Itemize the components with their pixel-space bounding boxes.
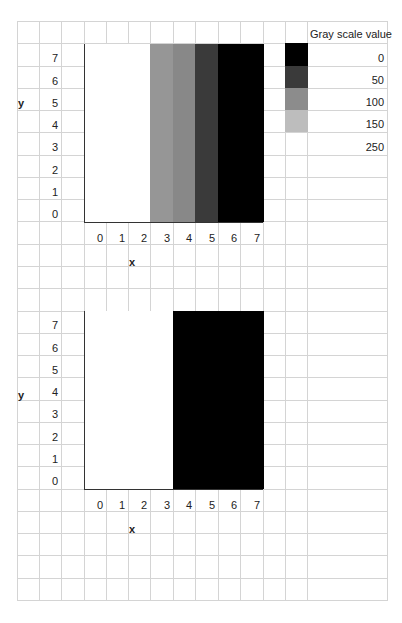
- x-tick-label: 0: [84, 499, 103, 511]
- x-tick-label: 1: [106, 232, 125, 244]
- heatmap-column-x4: [173, 311, 196, 489]
- x-tick-label: 4: [173, 232, 192, 244]
- y-tick-label: 5: [39, 97, 58, 109]
- heatmap-column-x7: [240, 44, 264, 222]
- spreadsheet-grid: 0123456701234567xy0123456701234567xyGray…: [0, 0, 402, 623]
- legend-swatch: [285, 88, 308, 110]
- x-tick-label: 7: [240, 499, 260, 511]
- heatmap-column-x2: [128, 44, 151, 222]
- y-axis-line: [84, 44, 85, 223]
- y-axis-line: [84, 311, 85, 490]
- grid-line-horizontal: [17, 266, 388, 267]
- y-tick-label: 1: [39, 453, 58, 465]
- y-tick-label: 4: [39, 386, 58, 398]
- legend-value-label: 50: [307, 74, 384, 86]
- grid-line-horizontal: [17, 288, 388, 289]
- x-tick-label: 6: [218, 499, 237, 511]
- y-tick-label: 6: [39, 75, 58, 87]
- legend-value-label: 250: [307, 141, 384, 153]
- y-tick-label: 7: [39, 319, 58, 331]
- grid-line-horizontal: [17, 244, 388, 245]
- heatmap-column-x6: [218, 44, 241, 222]
- x-tick-label: 3: [150, 499, 170, 511]
- grid-line-horizontal: [17, 511, 388, 512]
- x-tick-label: 7: [240, 232, 260, 244]
- y-tick-label: 4: [39, 119, 58, 131]
- x-tick-label: 2: [128, 232, 147, 244]
- x-axis-title: x: [129, 256, 135, 268]
- legend-swatch: [285, 110, 308, 132]
- x-tick-label: 5: [195, 232, 215, 244]
- y-tick-label: 0: [39, 208, 58, 220]
- y-tick-label: 0: [39, 475, 58, 487]
- y-tick-label: 3: [39, 141, 58, 153]
- legend-value-label: 150: [307, 118, 384, 130]
- grid-line-horizontal: [17, 21, 388, 22]
- y-tick-label: 3: [39, 408, 58, 420]
- legend-value-label: 0: [307, 52, 384, 64]
- heatmap-column-x3: [150, 44, 174, 222]
- x-tick-label: 0: [84, 232, 103, 244]
- y-tick-label: 5: [39, 364, 58, 376]
- x-axis-title: x: [129, 523, 135, 535]
- heatmap-column-x0: [84, 311, 107, 489]
- y-axis-title: y: [18, 97, 24, 109]
- legend-title: Gray scale value: [310, 28, 392, 40]
- heatmap-column-x7: [240, 311, 264, 489]
- heatmap-column-x3: [150, 311, 174, 489]
- heatmap-column-x6: [218, 311, 241, 489]
- grid-line-horizontal: [17, 555, 388, 556]
- heatmap-column-x4: [173, 44, 196, 222]
- x-tick-label: 3: [150, 232, 170, 244]
- legend-swatch: [285, 43, 308, 66]
- y-axis-title: y: [18, 389, 24, 401]
- y-tick-label: 2: [39, 431, 58, 443]
- y-tick-label: 7: [39, 52, 58, 64]
- grid-line-horizontal: [17, 533, 388, 534]
- heatmap-column-x1: [106, 44, 129, 222]
- heatmap-column-x1: [106, 311, 129, 489]
- heatmap-column-x2: [128, 311, 151, 489]
- y-tick-label: 2: [39, 164, 58, 176]
- x-axis-line: [84, 489, 263, 490]
- x-tick-label: 2: [128, 499, 147, 511]
- legend-swatch: [285, 66, 308, 88]
- grid-line-horizontal: [17, 578, 388, 579]
- x-tick-label: 1: [106, 499, 125, 511]
- legend-value-label: 100: [307, 96, 384, 108]
- x-axis-line: [84, 222, 263, 223]
- x-tick-label: 6: [218, 232, 237, 244]
- heatmap-column-x0: [84, 44, 107, 222]
- y-tick-label: 1: [39, 186, 58, 198]
- heatmap-column-x5: [195, 44, 219, 222]
- x-tick-label: 4: [173, 499, 192, 511]
- grid-line-horizontal: [17, 600, 388, 601]
- y-tick-label: 6: [39, 342, 58, 354]
- x-tick-label: 5: [195, 499, 215, 511]
- heatmap-column-x5: [195, 311, 219, 489]
